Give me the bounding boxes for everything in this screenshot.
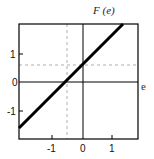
y-tick-label: 0 — [12, 77, 18, 88]
chart-title: F (e) — [92, 4, 115, 17]
x-tick-label: -1 — [47, 143, 56, 154]
x-axis-label: e — [141, 80, 146, 92]
y-tick-label: -1 — [7, 106, 16, 117]
x-tick-label: 0 — [80, 143, 86, 154]
chart: F (e) 1 0 -1 -1 0 1 e — [0, 0, 154, 159]
series-line-F — [19, 24, 123, 128]
y-tick-label: 1 — [10, 49, 16, 60]
x-tick-label: 1 — [109, 143, 115, 154]
